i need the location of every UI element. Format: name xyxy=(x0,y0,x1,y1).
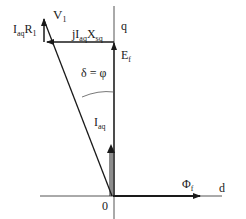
origin-label: 0 xyxy=(102,200,108,212)
iaq-label: Iaq xyxy=(94,116,106,131)
q-axis-label: q xyxy=(121,20,127,32)
v1-label: V1 xyxy=(53,8,66,24)
d-axis-label: d xyxy=(219,182,225,194)
phi-f-label: Φf xyxy=(182,178,193,193)
iaqr1-label: IaqR1 xyxy=(13,23,37,38)
jiaqxsq-label: jIaqXsq xyxy=(72,28,103,43)
v1-phasor xyxy=(44,20,112,196)
delta-phi-label: δ = φ xyxy=(81,67,106,79)
ef-label: Ef xyxy=(121,49,131,64)
delta-angle-arc xyxy=(82,92,114,97)
